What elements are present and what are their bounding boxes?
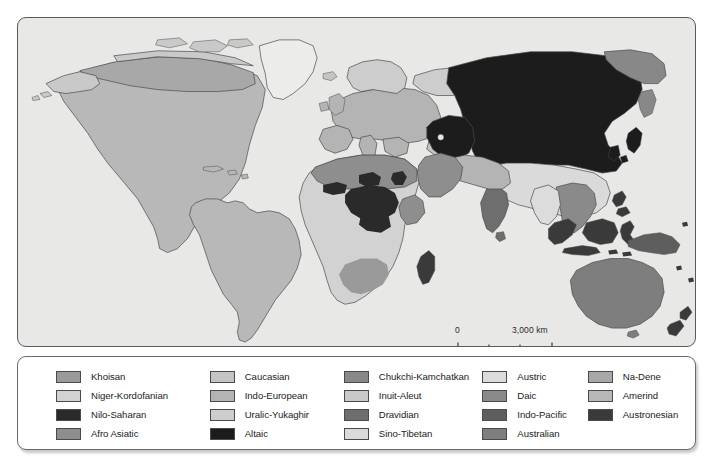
legend-column-1: Caucasian Indo-European Uralic-Yukaghir … (210, 367, 344, 443)
region-amerind-south-america (189, 199, 301, 342)
legend-label-khoisan: Khoisan (91, 371, 125, 382)
legend-item-sino-tibetan[interactable]: Sino-Tibetan (344, 424, 483, 443)
islands-british-isles (319, 94, 345, 116)
legend-item-nilo-saharan[interactable]: Nilo-Saharan (56, 405, 210, 424)
legend-swatch-dravidian (344, 409, 369, 421)
legend-swatch-indo-european (210, 390, 235, 402)
region-austronesian-philippines (612, 191, 630, 217)
region-austronesian-borneo (582, 219, 618, 245)
legend-label-chukchi-kamchatkan: Chukchi-Kamchatkan (379, 371, 469, 382)
legend-label-indo-european: Indo-European (245, 390, 308, 401)
island-iceland (323, 72, 337, 81)
legend-item-indo-pacific[interactable]: Indo-Pacific (482, 405, 587, 424)
legend-item-niger-kordofanian[interactable]: Niger-Kordofanian (56, 386, 210, 405)
legend-item-na-dene[interactable]: Na-Dene (588, 367, 695, 386)
region-dravidian (481, 187, 509, 233)
legend-swatch-afro-asiatic (56, 428, 81, 440)
legend-swatch-sino-tibetan (344, 428, 369, 440)
legend-swatch-australian (482, 428, 507, 440)
legend-label-austronesian: Austronesian (623, 409, 678, 420)
legend-column-0: Khoisan Niger-Kordofanian Nilo-Saharan A… (56, 367, 210, 443)
legend-item-caucasian[interactable]: Caucasian (210, 367, 344, 386)
islands-lesser-sunda (608, 250, 632, 257)
region-austric (530, 185, 560, 225)
map-frame: 0 3,000 km (17, 17, 696, 347)
legend-item-austric[interactable]: Austric (482, 367, 587, 386)
legend-item-dravidian[interactable]: Dravidian (344, 405, 483, 424)
legend-label-sino-tibetan: Sino-Tibetan (379, 428, 432, 439)
legend-swatch-indo-pacific (482, 409, 507, 421)
legend-item-khoisan[interactable]: Khoisan (56, 367, 210, 386)
legend-box: Khoisan Niger-Kordofanian Nilo-Saharan A… (17, 356, 696, 450)
legend-item-indo-european[interactable]: Indo-European (210, 386, 344, 405)
legend-label-uralic-yukaghir: Uralic-Yukaghir (245, 409, 309, 420)
legend-swatch-altaic (210, 428, 235, 440)
island-aleutians (32, 92, 52, 101)
region-afro-asiatic-arabia (417, 153, 463, 197)
region-greenland-inuit-aleut (259, 40, 317, 100)
legend-swatch-inuit-aleut (344, 390, 369, 402)
legend-swatch-nilo-saharan (56, 409, 81, 421)
legend-column-3: Austric Daic Indo-Pacific Australian (482, 367, 587, 443)
legend-item-afro-asiatic[interactable]: Afro Asiatic (56, 424, 210, 443)
legend-label-indo-pacific: Indo-Pacific (517, 409, 567, 420)
language-families-map-page: 0 3,000 km Khoisan (0, 0, 713, 470)
legend-swatch-daic (482, 390, 507, 402)
legend-column-4: Na-Dene Amerind Austronesian (588, 367, 695, 443)
legend-label-daic: Daic (517, 390, 536, 401)
islands-pacific (676, 222, 694, 283)
legend-label-afro-asiatic: Afro Asiatic (91, 428, 138, 439)
legend-item-daic[interactable]: Daic (482, 386, 587, 405)
island-madagascar (417, 251, 435, 285)
legend-label-austric: Austric (517, 371, 546, 382)
legend-item-australian[interactable]: Australian (482, 424, 587, 443)
region-uralic-yukaghir-scandinavia (347, 60, 407, 94)
island-sri-lanka (496, 232, 506, 242)
legend-item-amerind[interactable]: Amerind (588, 386, 695, 405)
region-altaic-japan (620, 127, 642, 163)
legend-swatch-niger-kordofanian (56, 390, 81, 402)
legend-swatch-uralic-yukaghir (210, 409, 235, 421)
legend-label-na-dene: Na-Dene (623, 371, 661, 382)
legend-label-nilo-saharan: Nilo-Saharan (91, 409, 146, 420)
legend-swatch-khoisan (56, 371, 81, 383)
region-chukchi-kamchatka-peninsula (638, 90, 656, 118)
legend-label-caucasian: Caucasian (245, 371, 290, 382)
legend-item-austronesian[interactable]: Austronesian (588, 405, 695, 424)
legend-swatch-caucasian (210, 371, 235, 383)
legend-swatch-chukchi-kamchatkan (344, 371, 369, 383)
legend-swatch-amerind (588, 390, 613, 402)
world-map (18, 18, 695, 346)
legend-label-amerind: Amerind (623, 390, 658, 401)
legend-label-australian: Australian (517, 428, 559, 439)
legend-swatch-na-dene (588, 371, 613, 383)
lake-aral (438, 134, 444, 140)
legend-item-inuit-aleut[interactable]: Inuit-Aleut (344, 386, 483, 405)
legend-item-altaic[interactable]: Altaic (210, 424, 344, 443)
islands-canadian-arctic (156, 38, 254, 52)
region-austronesian-java (562, 246, 600, 256)
legend-item-uralic-yukaghir[interactable]: Uralic-Yukaghir (210, 405, 344, 424)
legend-label-dravidian: Dravidian (379, 409, 419, 420)
legend-label-inuit-aleut: Inuit-Aleut (379, 390, 422, 401)
legend-item-chukchi-kamchatkan[interactable]: Chukchi-Kamchatkan (344, 367, 483, 386)
legend-column-2: Chukchi-Kamchatkan Inuit-Aleut Dravidian… (344, 367, 483, 443)
region-australian (570, 259, 664, 329)
region-austronesian-new-zealand (667, 306, 692, 336)
legend-columns: Khoisan Niger-Kordofanian Nilo-Saharan A… (18, 357, 695, 443)
legend-label-altaic: Altaic (245, 428, 268, 439)
region-austronesian-sumatra (548, 219, 576, 245)
legend-label-niger-kordofanian: Niger-Kordofanian (91, 390, 168, 401)
region-indo-pacific-new-guinea (628, 233, 680, 255)
legend-swatch-austronesian (588, 409, 613, 421)
island-tasmania (627, 330, 639, 338)
legend-swatch-austric (482, 371, 507, 383)
